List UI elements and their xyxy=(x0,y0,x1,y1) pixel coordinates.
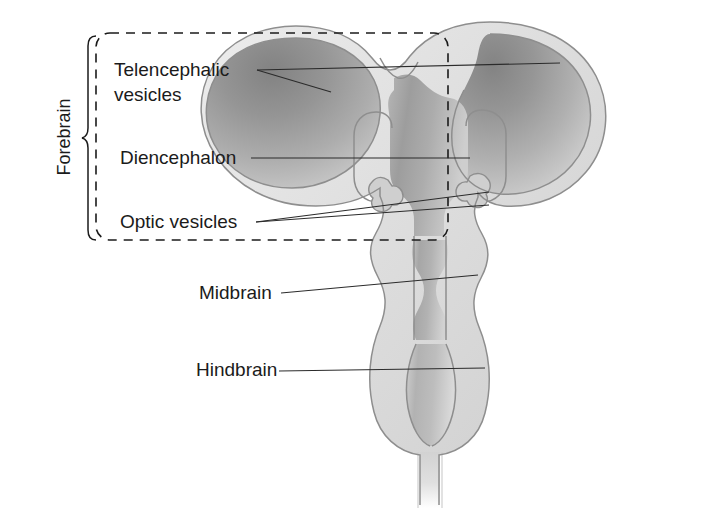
label-midbrain: Midbrain xyxy=(199,282,272,303)
forebrain-brace xyxy=(82,36,96,240)
label-telencephalic-vesicles-line2: vesicles xyxy=(114,84,182,105)
label-forebrain: Forebrain xyxy=(54,98,74,175)
label-optic-vesicles: Optic vesicles xyxy=(120,211,237,232)
label-hindbrain: Hindbrain xyxy=(196,359,277,380)
spinal-cord-stalk xyxy=(420,452,440,508)
anatomical-diagram: Telencephalic vesicles Diencephalon Opti… xyxy=(0,0,719,511)
label-diencephalon: Diencephalon xyxy=(120,147,236,168)
brain-vesicle-figure: Telencephalic vesicles Diencephalon Opti… xyxy=(0,0,719,511)
label-telencephalic-vesicles-line1: Telencephalic xyxy=(114,59,229,80)
